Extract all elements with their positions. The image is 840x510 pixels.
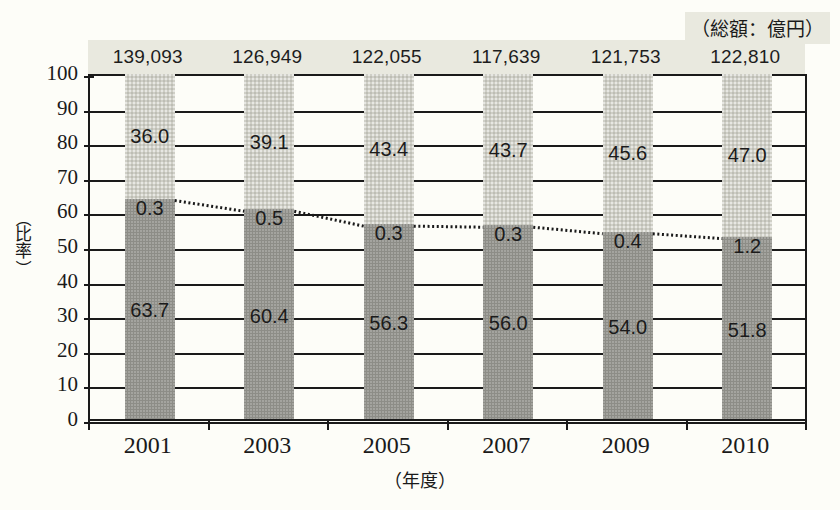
bar-segment-bottom-label: 60.4 [244, 304, 294, 327]
bar-segment-bottom: 56.3 [364, 225, 414, 420]
bar-segment-middle-label: 0.3 [125, 197, 175, 220]
bar-segment-top-label: 47.0 [722, 144, 772, 167]
bar-segment-middle-label: 0.3 [364, 222, 414, 245]
y-axis-tick-label: 30 [22, 303, 78, 328]
total-value: 121,753 [566, 40, 686, 74]
bar-segment-top: 45.6 [603, 74, 653, 232]
bar-segment-bottom: 54.0 [603, 233, 653, 420]
x-axis-tick [447, 419, 449, 430]
stacked-bar[interactable]: 56.043.70.3 [483, 74, 533, 420]
bar-segment-bottom-label: 54.0 [603, 315, 653, 338]
bar-segment-top-label: 39.1 [244, 130, 294, 153]
y-axis-tick-label: 50 [22, 234, 78, 259]
total-value: 117,639 [447, 40, 567, 74]
bar-segment-bottom-label: 56.3 [364, 311, 414, 334]
y-axis-tick-label: 90 [22, 96, 78, 121]
y-axis-tick-label: 40 [22, 269, 78, 294]
bar-segment-bottom: 63.7 [125, 200, 175, 420]
x-axis-tick [208, 419, 210, 430]
total-value: 126,949 [208, 40, 328, 74]
bar-segment-top-label: 43.7 [483, 138, 533, 161]
bar-segment-top-label: 36.0 [125, 125, 175, 148]
bar-segment-middle-label: 1.2 [722, 235, 772, 258]
y-axis-tick-label: 70 [22, 165, 78, 190]
stacked-bar[interactable]: 60.439.10.5 [244, 74, 294, 420]
totals-band: 139,093126,949122,055117,639121,753122,8… [88, 40, 805, 74]
plot-area: 63.736.00.360.439.10.556.343.40.356.043.… [88, 74, 805, 420]
total-value: 139,093 [88, 40, 208, 74]
y-axis-tick-label: 20 [22, 338, 78, 363]
x-axis-tick [327, 419, 329, 430]
bar-segment-middle-label: 0.3 [483, 223, 533, 246]
total-value: 122,810 [686, 40, 806, 74]
unit-note: （総額：億円） [685, 12, 830, 44]
y-axis-tick-label: 10 [22, 372, 78, 397]
y-axis-tick-label: 0 [22, 407, 78, 432]
stacked-bar[interactable]: 54.045.60.4 [603, 74, 653, 420]
y-axis-tick-label: 80 [22, 130, 78, 155]
x-axis-ticks [88, 419, 807, 431]
bar-segment-bottom-label: 63.7 [125, 298, 175, 321]
x-axis-tick [88, 419, 90, 430]
total-value: 122,055 [327, 40, 447, 74]
bar-segment-top: 36.0 [125, 74, 175, 199]
x-axis-tick-label: 2005 [327, 432, 447, 459]
bar-segment-top: 43.4 [364, 74, 414, 224]
x-axis-tick-label: 2007 [447, 432, 567, 459]
x-axis-tick-label: 2003 [208, 432, 328, 459]
x-axis-tick-label: 2001 [88, 432, 208, 459]
bar-segment-top-label: 45.6 [603, 141, 653, 164]
stacked-bar[interactable]: 63.736.00.3 [125, 74, 175, 420]
bar-segment-bottom: 60.4 [244, 211, 294, 420]
bar-group: 63.736.00.360.439.10.556.343.40.356.043.… [90, 76, 805, 420]
x-axis-tick [686, 419, 688, 430]
chart-root: （総額：億円） 139,093126,949122,055117,639121,… [0, 0, 840, 510]
bar-segment-middle-label: 0.5 [244, 207, 294, 230]
x-axis-tick [805, 419, 807, 430]
x-axis-tick-label: 2009 [566, 432, 686, 459]
y-axis-tick-label: 60 [22, 199, 78, 224]
bar-segment-bottom-label: 51.8 [722, 319, 772, 342]
bar-segment-bottom: 56.0 [483, 226, 533, 420]
x-axis-tick-labels: 200120032005200720092010 [88, 432, 805, 464]
bar-segment-top: 43.7 [483, 74, 533, 225]
bar-segment-bottom-label: 56.0 [483, 312, 533, 335]
x-axis-tick-label: 2010 [686, 432, 806, 459]
x-axis-title: （年度） [0, 466, 840, 492]
bar-segment-bottom: 51.8 [722, 241, 772, 420]
bar-segment-top-label: 43.4 [364, 138, 414, 161]
x-axis-tick [566, 419, 568, 430]
bar-segment-middle-label: 0.4 [603, 230, 653, 253]
y-axis-tick-label: 100 [22, 61, 78, 86]
plot-right-border [805, 74, 807, 422]
stacked-bar[interactable]: 51.847.01.2 [722, 74, 772, 420]
bar-segment-top: 47.0 [722, 74, 772, 237]
stacked-bar[interactable]: 56.343.40.3 [364, 74, 414, 420]
bar-segment-top: 39.1 [244, 74, 294, 209]
y-axis-tick-labels: 0102030405060708090100 [10, 74, 78, 420]
